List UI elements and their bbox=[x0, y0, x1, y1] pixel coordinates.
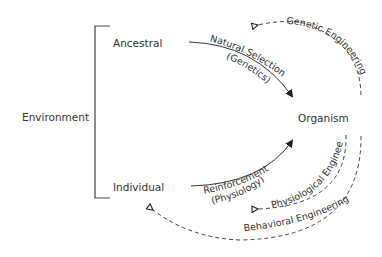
ancestral-label: Ancestral bbox=[113, 37, 162, 49]
environment-label: Environment bbox=[22, 111, 89, 123]
individual-label: Individual bbox=[113, 181, 164, 193]
environment-organism-diagram: Environment Ancestral Individual Organis… bbox=[0, 0, 382, 257]
genetic-engineering-label: Genetic Engineering bbox=[286, 15, 369, 76]
genetic-engineering-arrow bbox=[258, 21, 361, 95]
physiological-engineering-label: Physiological Engineering bbox=[0, 0, 345, 210]
environment-bracket bbox=[95, 26, 110, 198]
organism-label: Organism bbox=[298, 112, 349, 124]
